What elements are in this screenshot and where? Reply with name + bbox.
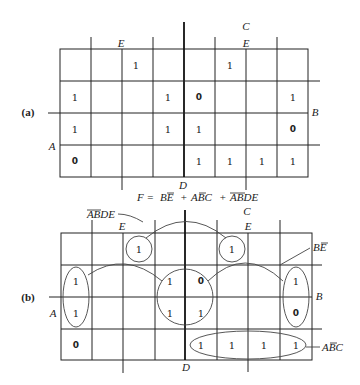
var-e-right-b: E [244,220,252,232]
cell-a-r2-c7: 0 [290,124,296,134]
cell-a-r3-c6: 1 [259,156,265,167]
cell-a-r1-c0: 1 [72,92,78,103]
cell-b-r1-c4: 0 [198,276,204,286]
var-b: B [312,106,319,118]
cell-b-r1-c7: 1 [293,276,299,287]
cell-b-r3-c4: 1 [198,340,204,351]
cell-a-r0-c2: 1 [133,60,139,71]
var-d-b: D [181,361,190,373]
equation-plus-1: + [180,191,187,203]
cell-b-r2-c0: 1 [73,308,79,319]
cell-a-r2-c0: 1 [72,124,78,135]
var-b-b: B [316,290,323,302]
panel-label-a: (a) [22,106,35,119]
equation-lhs: F = [136,191,154,203]
cell-b-r0-c2: 1 [136,244,142,255]
group-b-ebar [63,248,310,327]
cell-b-r2-c3: 1 [167,308,173,319]
cell-b-r3-c5: 1 [229,340,235,351]
cell-a-r3-c0: 0 [72,156,78,166]
cell-b-r0-c5: 1 [229,244,235,255]
equation-plus-2: + [219,191,226,203]
var-c-b: C [243,205,251,217]
cell-a-r3-c4: 1 [196,156,202,167]
cell-a-r2-c4: 1 [196,124,202,135]
group-abar-bbar-d-e [118,214,245,262]
var-d: D [178,179,187,191]
var-e-left-b: E [118,220,126,232]
cell-b-r1-c3: 1 [167,276,173,287]
cell-b-r3-c6: 1 [261,340,267,351]
var-e-left: E [117,37,125,49]
cell-a-r1-c4: 0 [196,92,202,102]
kmap-b: E E C B A D (b) 1 1 1 1 0 1 1 1 1 0 0 1 … [21,205,343,373]
cell-b-r2-c4: 1 [198,308,204,319]
cell-b-r3-c0: 0 [73,340,79,350]
cell-a-r1-c3: 1 [165,92,171,103]
var-a: A [48,140,56,152]
cell-a-r3-c5: 1 [227,156,233,167]
var-c: C [242,20,250,32]
cell-a-r3-c7: 1 [290,156,296,167]
cell-a-r1-c7: 1 [290,92,296,103]
var-e-right: E [242,37,250,49]
panel-label-b: (b) [21,291,35,304]
cell-b-r2-c7: 0 [293,308,299,318]
cell-b-r1-c0: 1 [73,276,79,287]
group-a-bbar-c [190,331,320,359]
var-a-b: A [49,307,57,319]
cell-a-r2-c3: 1 [165,124,171,135]
kmap-a: E E C B A D (a) 1 1 1 1 0 1 1 1 1 0 0 1 … [22,20,320,191]
boolean-equation: F = BE + ABC + ABDE [136,191,258,203]
cell-a-r0-c5: 1 [227,60,233,71]
karnaugh-map-figure: E E C B A D (a) 1 1 1 1 0 1 1 1 1 0 0 1 … [0,0,360,385]
cell-b-r3-c7: 1 [293,340,299,351]
